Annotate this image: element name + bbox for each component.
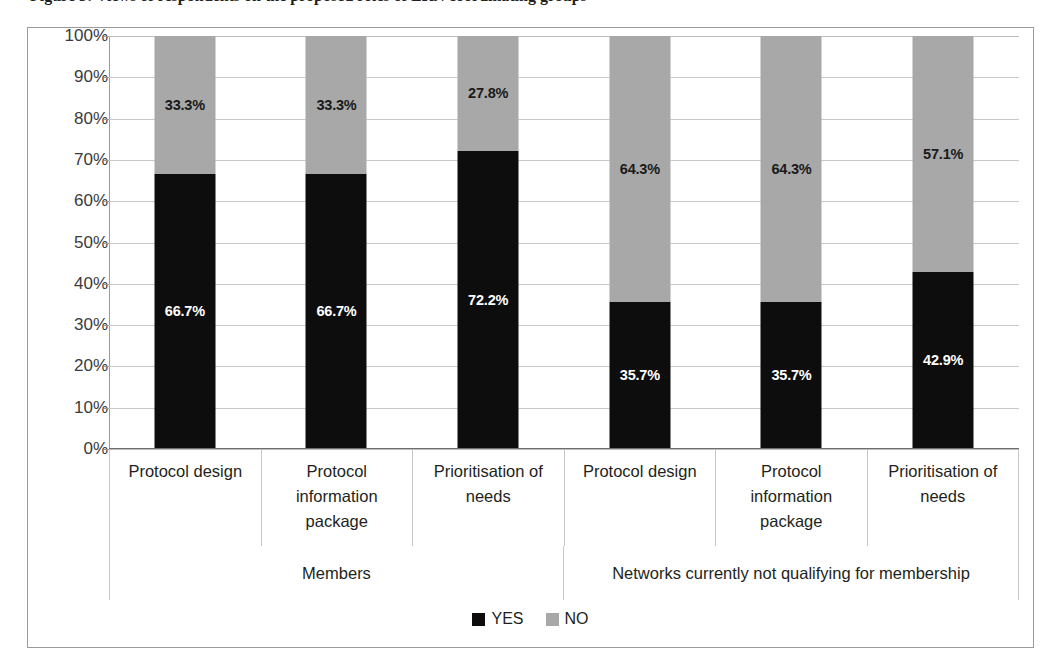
bar-segment-yes[interactable]: 35.7% xyxy=(609,302,670,449)
bar-value-label: 35.7% xyxy=(620,367,660,383)
legend-label-yes: YES xyxy=(491,610,523,628)
bar-slot: 64.3%35.7% xyxy=(716,36,868,449)
y-axis-tick-label: 30% xyxy=(32,316,108,333)
bar-stack[interactable]: 27.8%72.2% xyxy=(458,36,519,449)
bar-slot: 33.3%66.7% xyxy=(261,36,413,449)
bar-segment-no[interactable]: 64.3% xyxy=(761,36,822,302)
bar-value-label: 42.9% xyxy=(923,352,963,368)
bar-segment-no[interactable]: 27.8% xyxy=(458,36,519,151)
y-axis-tick-label: 10% xyxy=(32,399,108,416)
group-label: Members xyxy=(302,564,371,583)
plot-area: 33.3%66.7%33.3%66.7%27.8%72.2%64.3%35.7%… xyxy=(109,36,1019,449)
bar-stack[interactable]: 57.1%42.9% xyxy=(913,36,974,449)
group-cell-members: Members xyxy=(109,546,564,600)
bar-value-label: 35.7% xyxy=(771,367,811,383)
figure-caption: Figure 3: Views of respondents on the pr… xyxy=(30,0,1030,7)
bar-value-label: 66.7% xyxy=(165,303,205,319)
category-label: Prioritisation of needs xyxy=(421,459,556,509)
legend-swatch-yes xyxy=(472,613,485,626)
y-axis-tick-label: 20% xyxy=(32,357,108,374)
bar-stack[interactable]: 64.3%35.7% xyxy=(761,36,822,449)
bar-slot: 27.8%72.2% xyxy=(412,36,564,449)
legend-item-yes[interactable]: YES xyxy=(472,610,523,628)
category-cell: Prioritisation of needs xyxy=(868,450,1020,546)
legend-label-no: NO xyxy=(565,610,589,628)
bar-value-label: 64.3% xyxy=(620,161,660,177)
bar-slot: 57.1%42.9% xyxy=(867,36,1019,449)
y-axis-tick-label: 100% xyxy=(32,27,108,44)
category-label: Prioritisation of needs xyxy=(875,459,1010,509)
category-label: Protocol design xyxy=(128,459,242,484)
category-label: Protocol information package xyxy=(724,459,859,534)
group-label: Networks currently not qualifying for me… xyxy=(612,564,970,583)
legend: YES NO xyxy=(28,604,1033,634)
category-label-band: Protocol designProtocol information pack… xyxy=(109,449,1019,546)
y-axis-tick-label: 0% xyxy=(32,440,108,457)
category-cell: Prioritisation of needs xyxy=(413,450,565,546)
category-cell: Protocol information package xyxy=(262,450,414,546)
category-label: Protocol information package xyxy=(269,459,404,534)
y-axis-tick-label: 40% xyxy=(32,275,108,292)
bar-slot: 64.3%35.7% xyxy=(564,36,716,449)
bar-segment-yes[interactable]: 42.9% xyxy=(913,272,974,449)
category-cell: Protocol information package xyxy=(716,450,868,546)
bar-value-label: 33.3% xyxy=(165,97,205,113)
group-cell-non-members: Networks currently not qualifying for me… xyxy=(564,546,1019,600)
chart-frame: 0%10%20%30%40%50%60%70%80%90%100% 33.3%6… xyxy=(27,27,1034,648)
bar-segment-no[interactable]: 64.3% xyxy=(609,36,670,302)
bar-value-label: 57.1% xyxy=(923,146,963,162)
y-axis-tick-label: 50% xyxy=(32,234,108,251)
bar-value-label: 66.7% xyxy=(316,303,356,319)
bar-slot: 33.3%66.7% xyxy=(109,36,261,449)
bar-segment-no[interactable]: 33.3% xyxy=(306,36,367,174)
bar-segment-yes[interactable]: 66.7% xyxy=(154,174,215,449)
category-cell: Protocol design xyxy=(109,450,262,546)
y-axis-tick-labels: 0%10%20%30%40%50%60%70%80%90%100% xyxy=(28,28,108,449)
bar-segment-yes[interactable]: 66.7% xyxy=(306,174,367,449)
bar-stack[interactable]: 64.3%35.7% xyxy=(609,36,670,449)
category-label: Protocol design xyxy=(583,459,697,484)
category-cell: Protocol design xyxy=(565,450,717,546)
bar-segment-no[interactable]: 57.1% xyxy=(913,36,974,272)
y-axis-tick-label: 70% xyxy=(32,151,108,168)
bar-stack[interactable]: 33.3%66.7% xyxy=(306,36,367,449)
bar-stack[interactable]: 33.3%66.7% xyxy=(154,36,215,449)
y-axis-tick-label: 60% xyxy=(32,192,108,209)
bar-segment-yes[interactable]: 72.2% xyxy=(458,151,519,449)
bars-layer: 33.3%66.7%33.3%66.7%27.8%72.2%64.3%35.7%… xyxy=(109,36,1019,449)
y-axis-tick-label: 90% xyxy=(32,68,108,85)
bar-segment-yes[interactable]: 35.7% xyxy=(761,302,822,449)
bar-segment-no[interactable]: 33.3% xyxy=(154,36,215,174)
legend-item-no[interactable]: NO xyxy=(546,610,589,628)
bar-value-label: 27.8% xyxy=(468,85,508,101)
bar-value-label: 33.3% xyxy=(316,97,356,113)
y-axis-tick-label: 80% xyxy=(32,110,108,127)
legend-swatch-no xyxy=(546,613,559,626)
bar-value-label: 64.3% xyxy=(771,161,811,177)
group-label-band: Members Networks currently not qualifyin… xyxy=(109,546,1019,600)
bar-value-label: 72.2% xyxy=(468,292,508,308)
